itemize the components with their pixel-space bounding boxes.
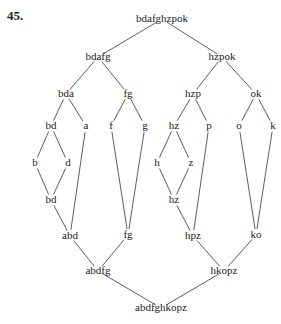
node-n_bda: bda: [58, 87, 74, 99]
tree-diagram: 45. bdafghzpokbdafghzpokbdafghzpokbdafgh…: [0, 0, 281, 324]
node-n_bd1: bd: [46, 119, 58, 131]
node-n_hz2: hz: [169, 193, 180, 205]
edge-n_z-n_hz2: [177, 168, 189, 194]
edge-n_ok-n_o: [242, 99, 253, 120]
node-n_abdfg: abdfg: [85, 264, 111, 276]
node-n_hz1: hz: [169, 119, 180, 131]
nodes-group: bdafghzpokbdafghzpokbdafghzpokbdafghzpok…: [32, 12, 276, 313]
node-n_bottom: abdfghkopz: [135, 301, 187, 313]
edge-n_fg2-n_abdfg: [102, 240, 124, 267]
edge-n_bd1-n_b: [37, 132, 48, 158]
edge-n_g-n_fg2: [129, 132, 144, 229]
edge-n_bdafg-n_bda: [70, 62, 94, 90]
node-n_f: f: [109, 119, 113, 131]
edge-n_f-n_fg2: [112, 132, 127, 229]
edge-n_fg1-n_f: [114, 99, 125, 120]
node-n_hpz: hpz: [185, 229, 201, 241]
node-n_z: z: [189, 156, 194, 168]
node-n_hkopz: hkopz: [211, 264, 238, 276]
edge-n_bdafg-n_fg1: [102, 62, 124, 90]
node-n_fg1: fg: [123, 87, 133, 99]
node-n_d: d: [65, 156, 71, 168]
edge-n_abd-n_abdfg: [74, 241, 95, 267]
node-n_h: h: [154, 156, 160, 168]
node-n_b: b: [32, 156, 38, 168]
node-n_ko: ko: [251, 228, 263, 240]
node-n_o: o: [236, 119, 242, 131]
edge-n_k-n_ko: [257, 132, 272, 229]
node-n_ok: ok: [251, 87, 263, 99]
edge-n_d-n_bd2: [54, 168, 66, 194]
node-n_g: g: [142, 119, 148, 131]
node-n_hzpok: hzpok: [209, 50, 236, 62]
edge-n_p-n_hpz: [194, 132, 208, 230]
edge-n_hzpok-n_hzp: [197, 62, 219, 90]
node-n_a: a: [84, 119, 89, 131]
edge-n_hzpok-n_ok: [226, 61, 252, 89]
diagram-svg: bdafghzpokbdafghzpokbdafghzpokbdafghzpok…: [0, 0, 281, 324]
node-n_hzp: hzp: [185, 87, 201, 99]
node-n_fg2: fg: [123, 228, 133, 240]
edge-n_h-n_hz2: [160, 168, 172, 194]
edge-n_bd2-n_abd: [54, 205, 67, 230]
edge-n_b-n_bd2: [37, 169, 48, 195]
edge-n_bd1-n_d: [54, 131, 66, 157]
edge-n_ko-n_hkopz: [228, 239, 252, 266]
edge-n_bda-n_bd1: [54, 99, 64, 120]
node-n_k: k: [270, 119, 276, 131]
edge-n_o-n_ko: [240, 132, 255, 229]
edge-n_top-n_bdafg: [103, 22, 157, 54]
node-n_bdafg: bdafg: [85, 50, 111, 62]
edge-n_hz1-n_h: [160, 131, 172, 157]
edge-n_hz2-n_hpz: [177, 205, 190, 230]
node-n_abd: abd: [62, 229, 78, 241]
node-n_bd2: bd: [46, 193, 58, 205]
edge-n_hzp-n_p: [196, 99, 207, 120]
node-n_top: bdafghzpok: [136, 12, 188, 24]
edge-n_ok-n_k: [259, 99, 270, 120]
node-n_p: p: [206, 119, 212, 131]
edge-n_bda-n_a: [69, 99, 83, 121]
edge-n_fg1-n_g: [131, 99, 142, 120]
edge-n_a-n_abd: [71, 132, 85, 230]
edge-n_hz1-n_z: [177, 131, 189, 157]
